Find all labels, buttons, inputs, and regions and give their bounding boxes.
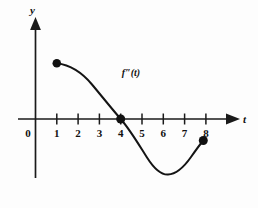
x-axis-label: t xyxy=(243,113,247,125)
curve-label: f″(t) xyxy=(122,67,140,79)
x-tick-label-7: 7 xyxy=(182,127,188,139)
curve-right-endpoint-dot xyxy=(199,136,208,145)
curve-left-endpoint-dot xyxy=(53,59,62,68)
x-tick-label-6: 6 xyxy=(161,127,167,139)
x-tick-label-4: 4 xyxy=(118,127,124,139)
graph-svg: 1 2 3 4 5 6 7 8 0 t y f″(t) xyxy=(0,0,258,208)
figure-container: 1 2 3 4 5 6 7 8 0 t y f″(t) xyxy=(0,0,258,208)
y-axis-arrow-icon xyxy=(30,17,41,30)
x-tick-label-3: 3 xyxy=(97,127,103,139)
origin-label: 0 xyxy=(25,127,31,139)
x-tick-label-5: 5 xyxy=(139,127,145,139)
curve-zero-crossing-dot xyxy=(116,115,125,124)
x-tick-label-1: 1 xyxy=(54,127,60,139)
y-axis-label: y xyxy=(28,4,35,16)
x-tick-label-2: 2 xyxy=(75,127,81,139)
x-axis-arrow-icon xyxy=(226,114,240,125)
